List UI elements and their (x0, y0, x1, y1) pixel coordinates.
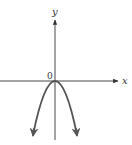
left-curve-arrow (33, 128, 34, 136)
y-axis-label: y (51, 6, 58, 17)
right-curve-arrow (76, 128, 77, 136)
x-axis-label: x (122, 75, 128, 86)
origin-label: 0 (47, 71, 53, 81)
parabola-graph: y x 0 (0, 0, 132, 145)
